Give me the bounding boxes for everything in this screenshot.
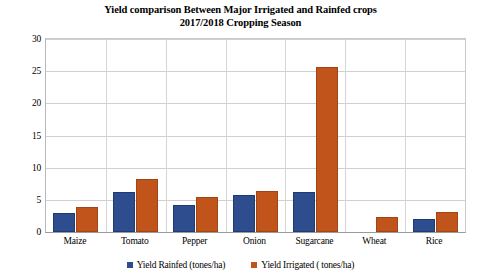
legend-label: Yield Irrigated ( tones/ha) — [261, 260, 354, 270]
bar-maize-irrigated — [76, 207, 98, 232]
x-axis-label-pepper: Pepper — [165, 236, 225, 246]
bar-pepper-rainfed — [173, 205, 195, 232]
y-axis: 051015202530 — [0, 38, 41, 234]
chart-legend: Yield Rainfed (tones/ha)Yield Irrigated … — [0, 260, 481, 270]
bar-group — [226, 39, 286, 232]
chart-container: Yield comparison Between Major Irrigated… — [0, 0, 481, 279]
x-axis-label-onion: Onion — [225, 236, 285, 246]
bar-rice-irrigated — [436, 212, 458, 232]
legend-swatch-icon — [251, 262, 257, 268]
bar-group — [405, 39, 465, 232]
bar-onion-rainfed — [233, 195, 255, 232]
bar-tomato-rainfed — [113, 192, 135, 232]
y-axis-tick-label: 10 — [3, 163, 41, 173]
bar-wheat-irrigated — [376, 217, 398, 232]
chart-title: Yield comparison Between Major Irrigated… — [0, 4, 481, 29]
y-axis-tick-label: 30 — [3, 34, 41, 44]
y-axis-tick-label: 15 — [3, 131, 41, 141]
legend-item[interactable]: Yield Rainfed (tones/ha) — [127, 260, 226, 270]
legend-item[interactable]: Yield Irrigated ( tones/ha) — [251, 260, 354, 270]
y-axis-tick-label: 25 — [3, 66, 41, 76]
legend-label: Yield Rainfed (tones/ha) — [137, 260, 226, 270]
x-axis-label-rice: Rice — [404, 236, 464, 246]
bar-group — [345, 39, 405, 232]
bar-group — [106, 39, 166, 232]
x-axis-label-wheat: Wheat — [344, 236, 404, 246]
y-axis-tick-label: 20 — [3, 98, 41, 108]
x-axis: MaizeTomatoPepperOnionSugarcaneWheatRice — [45, 236, 466, 252]
x-axis-label-maize: Maize — [45, 236, 105, 246]
bar-group — [166, 39, 226, 232]
x-axis-label-tomato: Tomato — [105, 236, 165, 246]
bar-maize-rainfed — [53, 213, 75, 232]
bar-rice-rainfed — [413, 219, 435, 232]
bar-onion-irrigated — [256, 191, 278, 232]
bar-pepper-irrigated — [196, 197, 218, 232]
legend-swatch-icon — [127, 262, 133, 268]
bar-sugarcane-rainfed — [293, 192, 315, 232]
bar-tomato-irrigated — [136, 179, 158, 232]
bar-group — [46, 39, 106, 232]
plot-area — [45, 38, 466, 233]
chart-title-line-2: 2017/2018 Cropping Season — [0, 17, 481, 30]
x-axis-label-sugarcane: Sugarcane — [284, 236, 344, 246]
chart-title-line-1: Yield comparison Between Major Irrigated… — [104, 4, 377, 15]
bar-sugarcane-irrigated — [316, 67, 338, 232]
y-axis-tick-label: 5 — [3, 195, 41, 205]
y-axis-tick-label: 0 — [3, 227, 41, 237]
bar-group — [285, 39, 345, 232]
